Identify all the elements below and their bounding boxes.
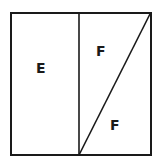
region-label-f-upper: F [96, 44, 106, 58]
outer-square [11, 13, 151, 155]
diagonal-divider [79, 14, 150, 155]
region-label-f-lower: F [110, 118, 120, 132]
diagram-canvas [0, 0, 156, 164]
region-label-e: E [36, 61, 46, 75]
